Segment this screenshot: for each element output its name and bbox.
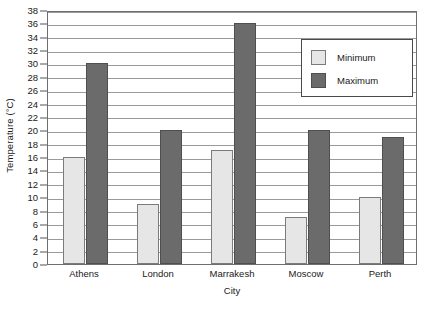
bar-group (48, 12, 122, 264)
y-axis-tick-mark (40, 64, 47, 65)
y-axis-tick-mark (40, 117, 47, 118)
y-axis-tick-label: 32 (27, 46, 38, 56)
bar-athens-maximum (86, 63, 108, 264)
bar-group (122, 12, 196, 264)
bar-london-minimum (137, 204, 159, 264)
minimum-swatch-icon (311, 50, 326, 65)
y-axis-tick-mark (40, 184, 47, 185)
y-axis-tick-mark (40, 251, 47, 252)
y-axis-tick-label: 36 (27, 20, 38, 30)
y-axis-tick-mark (40, 131, 47, 132)
y-axis-tick-mark (40, 211, 47, 212)
x-axis-tick-label: Moscow (289, 268, 324, 279)
x-axis-tick-label: Perth (369, 268, 392, 279)
y-axis-tick-mark (40, 238, 47, 239)
maximum-swatch-icon (311, 73, 326, 88)
bar-moscow-minimum (285, 217, 307, 264)
y-axis-tick-label: 34 (27, 33, 38, 43)
y-axis-title: Temperature (°C) (0, 0, 18, 270)
bar-marrakesh-minimum (211, 150, 233, 264)
y-axis-tick-label: 14 (27, 167, 38, 177)
y-axis-tick-label: 20 (27, 127, 38, 137)
legend-item-minimum: Minimum (311, 47, 412, 68)
bar-athens-minimum (63, 157, 85, 264)
y-axis-tick-mark (40, 171, 47, 172)
y-axis-tick-mark (40, 77, 47, 78)
y-axis-title-text: Temperature (°C) (4, 98, 15, 173)
y-axis-tick-mark (40, 224, 47, 225)
y-axis-tick-label: 28 (27, 73, 38, 83)
legend-item-maximum: Maximum (311, 70, 412, 91)
y-axis-tick-label: 12 (27, 180, 38, 190)
x-axis-tick-label: Athens (69, 268, 99, 279)
y-axis-tick-mark (40, 158, 47, 159)
legend-label-maximum: Maximum (337, 75, 378, 86)
bar-moscow-maximum (308, 130, 330, 264)
y-axis-tick-label: 8 (33, 207, 38, 217)
y-axis-tick-label: 6 (33, 220, 38, 230)
bar-marrakesh-maximum (234, 23, 256, 264)
legend: Minimum Maximum (301, 39, 413, 97)
y-axis-tick-mark (40, 144, 47, 145)
y-axis-tick-mark (40, 104, 47, 105)
y-axis-tick-mark (40, 11, 47, 12)
bar-chart: Temperature (°C) 02468101214161820222426… (0, 0, 431, 309)
legend-label-minimum: Minimum (337, 52, 376, 63)
y-axis-tick-mark (40, 265, 47, 266)
x-axis-tick-labels: AthensLondonMarrakeshMoscowPerth (47, 268, 417, 283)
y-axis-tick-mark (40, 24, 47, 25)
y-axis-tick-label: 18 (27, 140, 38, 150)
y-axis-tick-label: 4 (33, 234, 38, 244)
y-axis-tick-mark (40, 51, 47, 52)
y-axis-tick-label: 38 (27, 6, 38, 16)
y-axis-tick-mark (40, 198, 47, 199)
y-axis-tick-mark (40, 91, 47, 92)
x-axis-title: City (47, 285, 417, 296)
bar-perth-minimum (359, 197, 381, 264)
y-axis-tick-labels: 02468101214161820222426283032343638 (18, 11, 40, 265)
y-axis-tick-label: 2 (33, 247, 38, 257)
y-axis-tick-label: 24 (27, 100, 38, 110)
x-axis-tick-label: London (142, 268, 174, 279)
y-axis-tick-label: 22 (27, 113, 38, 123)
bar-group (196, 12, 270, 264)
x-axis-tick-label: Marrakesh (210, 268, 255, 279)
y-axis-tick-marks (40, 11, 47, 265)
y-axis-tick-label: 0 (33, 260, 38, 270)
y-axis-tick-label: 16 (27, 153, 38, 163)
y-axis-tick-label: 26 (27, 86, 38, 96)
bar-london-maximum (160, 130, 182, 264)
y-axis-tick-mark (40, 37, 47, 38)
y-axis-tick-label: 10 (27, 193, 38, 203)
bar-perth-maximum (382, 137, 404, 264)
y-axis-tick-label: 30 (27, 60, 38, 70)
